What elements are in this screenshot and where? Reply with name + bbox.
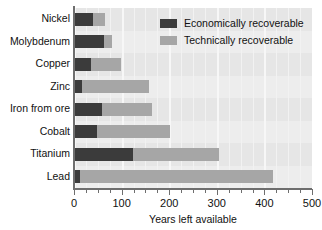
bar-group bbox=[74, 170, 312, 183]
x-tick-minor bbox=[229, 189, 230, 193]
x-tick-minor bbox=[134, 189, 135, 193]
y-tick-label: Zinc bbox=[0, 81, 70, 92]
x-tick-major bbox=[122, 189, 123, 195]
y-axis-line bbox=[73, 6, 75, 190]
x-tick-label: 300 bbox=[208, 197, 226, 209]
x-tick-minor bbox=[193, 189, 194, 193]
bar-group bbox=[74, 148, 312, 161]
bar-group bbox=[74, 103, 312, 116]
x-tick-minor bbox=[110, 189, 111, 193]
bar-group bbox=[74, 80, 312, 93]
y-tick-label: Copper bbox=[0, 58, 70, 69]
bar-economically-recoverable bbox=[74, 80, 82, 93]
y-axis-labels: NickelMolybdenumCopperZincIron from oreC… bbox=[0, 8, 70, 188]
bar-economically-recoverable bbox=[74, 58, 91, 71]
x-tick-minor bbox=[98, 189, 99, 193]
bar-economically-recoverable bbox=[74, 35, 104, 48]
y-tick-label: Nickel bbox=[0, 13, 70, 24]
x-tick-minor bbox=[276, 189, 277, 193]
bar-group bbox=[74, 58, 312, 71]
x-tick-minor bbox=[288, 189, 289, 193]
y-tick-label: Molybdenum bbox=[0, 36, 70, 47]
chart-legend: Economically recoverableTechnically reco… bbox=[160, 16, 318, 50]
x-tick-minor bbox=[253, 189, 254, 193]
legend-entry[interactable]: Economically recoverable bbox=[160, 16, 318, 30]
x-tick-minor bbox=[86, 189, 87, 193]
bar-chart: NickelMolybdenumCopperZincIron from oreC… bbox=[0, 0, 322, 230]
x-tick-label: 0 bbox=[71, 197, 77, 209]
legend-label: Technically recoverable bbox=[184, 34, 293, 46]
bar-economically-recoverable bbox=[74, 13, 93, 26]
x-tick-label: 200 bbox=[160, 197, 178, 209]
x-tick-label: 500 bbox=[303, 197, 321, 209]
x-tick-label: 400 bbox=[255, 197, 273, 209]
y-tick-label: Iron from ore bbox=[0, 103, 70, 114]
x-axis-title: Years left available bbox=[74, 213, 312, 225]
x-tick-minor bbox=[157, 189, 158, 193]
legend-swatch-icon bbox=[160, 36, 177, 45]
x-tick-minor bbox=[205, 189, 206, 193]
bar-economically-recoverable bbox=[74, 103, 102, 116]
y-tick-label: Titanium bbox=[0, 148, 70, 159]
x-tick-major bbox=[169, 189, 170, 195]
bar-technically-recoverable bbox=[74, 80, 149, 93]
x-tick-major bbox=[74, 189, 75, 195]
x-tick-major bbox=[217, 189, 218, 195]
y-tick-label: Lead bbox=[0, 171, 70, 182]
x-tick-major bbox=[312, 189, 313, 195]
x-tick-label: 100 bbox=[112, 197, 130, 209]
bar-economically-recoverable bbox=[74, 148, 133, 161]
x-tick-minor bbox=[145, 189, 146, 193]
bar-group bbox=[74, 125, 312, 138]
bar-technically-recoverable bbox=[74, 170, 273, 183]
x-tick-major bbox=[264, 189, 265, 195]
bar-economically-recoverable bbox=[74, 170, 80, 183]
legend-label: Economically recoverable bbox=[184, 17, 304, 29]
bar-economically-recoverable bbox=[74, 125, 97, 138]
x-tick-minor bbox=[241, 189, 242, 193]
legend-swatch-icon bbox=[160, 19, 177, 28]
x-tick-minor bbox=[300, 189, 301, 193]
y-tick-label: Cobalt bbox=[0, 126, 70, 137]
x-tick-minor bbox=[181, 189, 182, 193]
legend-entry[interactable]: Technically recoverable bbox=[160, 33, 318, 47]
